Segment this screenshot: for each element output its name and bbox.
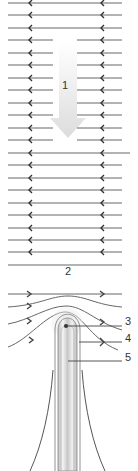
field-diagram-svg <box>0 0 138 471</box>
label-5-rod-body: 5 <box>125 352 131 363</box>
label-4-rod-surface: 4 <box>125 333 131 344</box>
label-2-field-line: 2 <box>65 266 71 277</box>
field-diagram: 1 2 3 4 5 <box>0 0 138 471</box>
conducting-rod <box>55 314 80 471</box>
label-1-field-direction: 1 <box>62 80 68 91</box>
label-3-tip-point: 3 <box>125 316 131 327</box>
